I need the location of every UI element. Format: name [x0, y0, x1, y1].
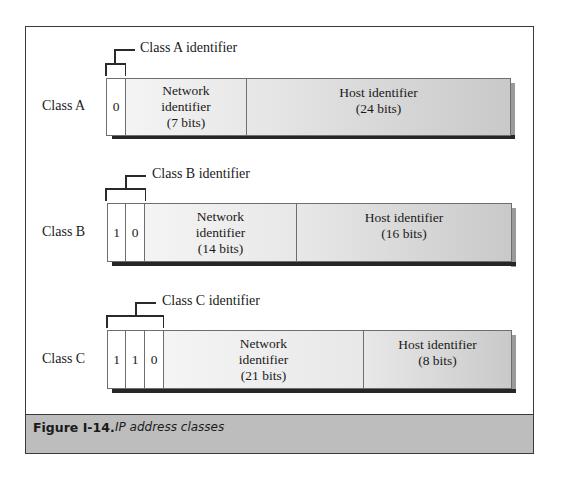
class-b-bit-1: 0: [125, 203, 145, 262]
class-c-network-line1: Network: [239, 336, 288, 352]
class-c-bit-2: 0: [144, 330, 164, 389]
figure-number: Figure I-14.: [33, 420, 115, 435]
class-b-shadow-bottom: [112, 262, 516, 266]
bracket-b-left-leg: [105, 188, 107, 201]
class-c-bit-1: 1: [125, 330, 145, 389]
class-a-network-field: Network identifier (7 bits): [125, 78, 247, 136]
class-c-network-line2: identifier: [239, 352, 288, 368]
class-a-host-line1: Host identifier: [339, 85, 417, 101]
class-a-host-field: Host identifier (24 bits): [246, 78, 511, 136]
class-a-label: Class A: [42, 98, 85, 114]
class-c-network-bits: (21 bits): [239, 368, 288, 384]
bracket-a-right-leg: [125, 63, 127, 76]
class-a-network-bits: (7 bits): [161, 115, 210, 131]
class-c-network-field: Network identifier (21 bits): [163, 330, 364, 389]
bracket-a-stem: [114, 49, 116, 64]
class-a-identifier-label: Class A identifier: [140, 40, 237, 56]
class-b-identifier-label: Class B identifier: [152, 166, 250, 182]
bracket-b-right-leg: [145, 188, 147, 201]
bracket-c-stem: [135, 302, 137, 316]
bracket-b-leader: [125, 175, 146, 177]
class-a-bit-0: 0: [106, 78, 126, 136]
class-b-network-bits: (14 bits): [196, 241, 245, 257]
class-a-host-bits: (24 bits): [339, 101, 417, 117]
class-b-host-line1: Host identifier: [365, 210, 443, 226]
class-c-host-field: Host identifier (8 bits): [363, 330, 512, 389]
class-c-shadow-bottom: [112, 389, 516, 393]
class-b-label: Class B: [42, 224, 85, 240]
bracket-c-leader: [135, 302, 156, 304]
bracket-a-leader: [114, 49, 135, 51]
class-b-network-field: Network identifier (14 bits): [144, 203, 297, 262]
bracket-a-left-leg: [105, 63, 107, 76]
class-b-host-field: Host identifier (16 bits): [296, 203, 512, 262]
class-b-address-box: 1 0 Network identifier (14 bits) Host id…: [107, 203, 512, 262]
class-c-host-line1: Host identifier: [398, 337, 476, 353]
bracket-a-horizontal: [105, 63, 126, 65]
class-a-network-line2: identifier: [161, 99, 210, 115]
class-b-bit-0: 1: [107, 203, 126, 262]
class-c-address-box: 1 1 0 Network identifier (21 bits) Host …: [107, 330, 512, 389]
class-c-label: Class C: [42, 351, 85, 367]
class-b-network-line1: Network: [196, 209, 245, 225]
class-c-bit-0: 1: [107, 330, 126, 389]
bracket-b-stem: [125, 175, 127, 189]
bracket-c-left-leg: [106, 315, 108, 328]
class-b-host-bits: (16 bits): [365, 226, 443, 242]
figure-caption-band: Figure I-14. IP address classes: [25, 414, 534, 454]
class-c-identifier-label: Class C identifier: [162, 293, 260, 309]
class-c-host-bits: (8 bits): [398, 353, 476, 369]
bracket-c-right-leg: [163, 315, 165, 328]
class-a-network-line1: Network: [161, 83, 210, 99]
figure-caption: IP address classes: [115, 420, 224, 434]
class-b-network-line2: identifier: [196, 225, 245, 241]
class-a-address-box: 0 Network identifier (7 bits) Host ident…: [106, 78, 511, 136]
